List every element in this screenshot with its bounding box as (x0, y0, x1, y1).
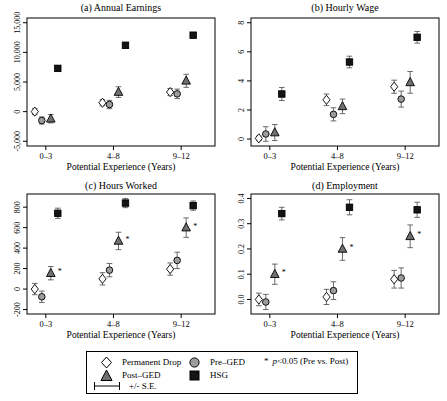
legend-label-hsg: HSG (210, 371, 228, 380)
circle-marker (330, 111, 337, 118)
circle-marker (174, 257, 181, 264)
square-marker (190, 202, 196, 208)
triangle-marker (47, 114, 56, 122)
y-tick-label: 0.2 (237, 244, 246, 254)
square-marker (122, 42, 128, 48)
x-tick-label: 4–8 (107, 319, 120, 329)
x-axis-label: Potential Experience (Years) (67, 162, 176, 173)
panel-svg: (b) Hourly Wage024680–34–89–12Potential … (224, 0, 447, 180)
sig-asterisk: * (193, 222, 197, 231)
y-tick-label: 0.1 (237, 269, 246, 279)
square-marker (346, 59, 352, 65)
y-tick-label: 400 (13, 242, 22, 254)
legend-label-pre-ged: Pre–GED (210, 358, 245, 367)
chart-panel-annual-earnings: (a) Annual Earnings-5,00005,00010,00015,… (0, 0, 223, 180)
y-tick-label: -5,000 (13, 131, 22, 152)
square-marker (122, 200, 128, 206)
x-tick-label: 9–12 (173, 319, 190, 329)
square-marker (414, 207, 420, 213)
x-tick-label: 0–3 (39, 319, 52, 329)
chart-panel-hours-worked: (c) Hours Worked-20002004006008000–34–89… (0, 180, 223, 347)
chart-panel-hourly-wage: (b) Hourly Wage024680–34–89–12Potential … (224, 0, 447, 180)
x-tick-label: 4–8 (331, 151, 344, 161)
sig-asterisk: * (282, 268, 286, 277)
y-tick-label: 0.3 (237, 219, 246, 229)
sig-asterisk: * (264, 357, 269, 366)
panel-title: (a) Annual Earnings (81, 2, 162, 14)
legend: Permanent Drop Pre–GED *p<0.05 (Pre vs. … (86, 351, 358, 394)
sig-asterisk: * (125, 235, 129, 244)
y-tick-label: 200 (13, 263, 22, 275)
x-tick-label: 0–3 (263, 319, 276, 329)
triangle-marker (406, 78, 415, 86)
triangle-marker (271, 269, 280, 277)
y-tick-label: 8 (237, 21, 246, 25)
diamond-marker (255, 134, 262, 143)
panel-title: (d) Employment (312, 180, 378, 192)
circle-marker (263, 131, 270, 138)
y-tick-label: 2 (237, 108, 246, 112)
circle-marker (39, 117, 46, 124)
square-icon (187, 369, 202, 382)
sig-asterisk: * (349, 243, 353, 252)
circle-marker (106, 267, 113, 274)
circle-marker (398, 96, 405, 103)
x-tick-label: 9–12 (397, 151, 414, 161)
x-tick-label: 0–3 (39, 151, 52, 161)
y-tick-label: 6 (237, 50, 246, 54)
diamond-marker (391, 82, 398, 91)
legend-item-permanent-drop: Permanent Drop (99, 356, 181, 369)
y-tick-label: -200 (13, 302, 22, 317)
y-tick-label: 0 (237, 137, 246, 141)
figure: (a) Annual Earnings-5,00005,00010,00015,… (0, 0, 447, 401)
diamond-marker (323, 95, 330, 104)
circle-shape (190, 358, 199, 367)
y-tick-label: 5,000 (13, 73, 22, 91)
x-tick-label: 9–12 (397, 319, 414, 329)
triangle-marker (114, 236, 123, 244)
diamond-marker (391, 275, 398, 284)
square-marker (279, 210, 285, 216)
x-axis-label: Potential Experience (Years) (291, 162, 400, 173)
legend-item-pre-ged: Pre–GED (187, 356, 245, 369)
y-tick-label: 10,000 (13, 41, 22, 63)
triangle-marker (406, 232, 415, 240)
y-tick-label: 0 (13, 110, 22, 114)
square-marker (55, 65, 61, 71)
x-tick-label: 0–3 (263, 151, 276, 161)
x-tick-label: 4–8 (107, 151, 120, 161)
x-axis-label: Potential Experience (Years) (291, 330, 400, 341)
diamond-shape (102, 357, 112, 368)
y-tick-label: 0.0 (237, 294, 246, 304)
circle-marker (330, 287, 337, 294)
y-tick-label: 0.4 (237, 193, 246, 203)
x-axis-label: Potential Experience (Years) (67, 330, 176, 341)
diamond-marker (167, 265, 174, 274)
circle-marker (174, 91, 181, 98)
y-tick-label: 0 (13, 287, 22, 291)
square-marker (190, 32, 196, 38)
x-tick-label: 4–8 (331, 319, 344, 329)
diamond-marker (31, 284, 38, 293)
legend-label-permanent-drop: Permanent Drop (122, 358, 181, 367)
diamond-icon (99, 356, 114, 369)
diamond-marker (99, 274, 106, 283)
square-marker (55, 210, 61, 216)
triangle-marker (338, 102, 347, 110)
panel-svg: (c) Hours Worked-20002004006008000–34–89… (0, 180, 223, 347)
sig-asterisk: * (417, 230, 421, 239)
triangle-marker (182, 223, 191, 231)
triangle-shape (101, 370, 112, 381)
square-marker (414, 34, 420, 40)
legend-item-hsg: HSG (187, 369, 228, 382)
circle-marker (263, 299, 270, 306)
square-marker (279, 91, 285, 97)
sig-asterisk: * (58, 267, 62, 276)
triangle-marker (271, 128, 280, 136)
diamond-marker (323, 292, 330, 301)
panel-svg: (d) Employment0.00.10.20.30.40–34–89–12P… (224, 180, 447, 347)
square-shape (190, 371, 199, 380)
legend-label-se: +/- S.E. (129, 382, 157, 391)
panel-title: (c) Hours Worked (85, 180, 157, 192)
triangle-marker (182, 76, 191, 84)
